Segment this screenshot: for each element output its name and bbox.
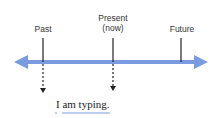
down-arrow-icon	[110, 86, 116, 91]
right-arrow-icon	[194, 55, 208, 69]
left-arrow-icon	[14, 55, 28, 69]
example-sentence: I am typing.	[56, 98, 109, 110]
down-arrow-icon	[40, 88, 46, 93]
timeline-diagram	[0, 0, 220, 118]
